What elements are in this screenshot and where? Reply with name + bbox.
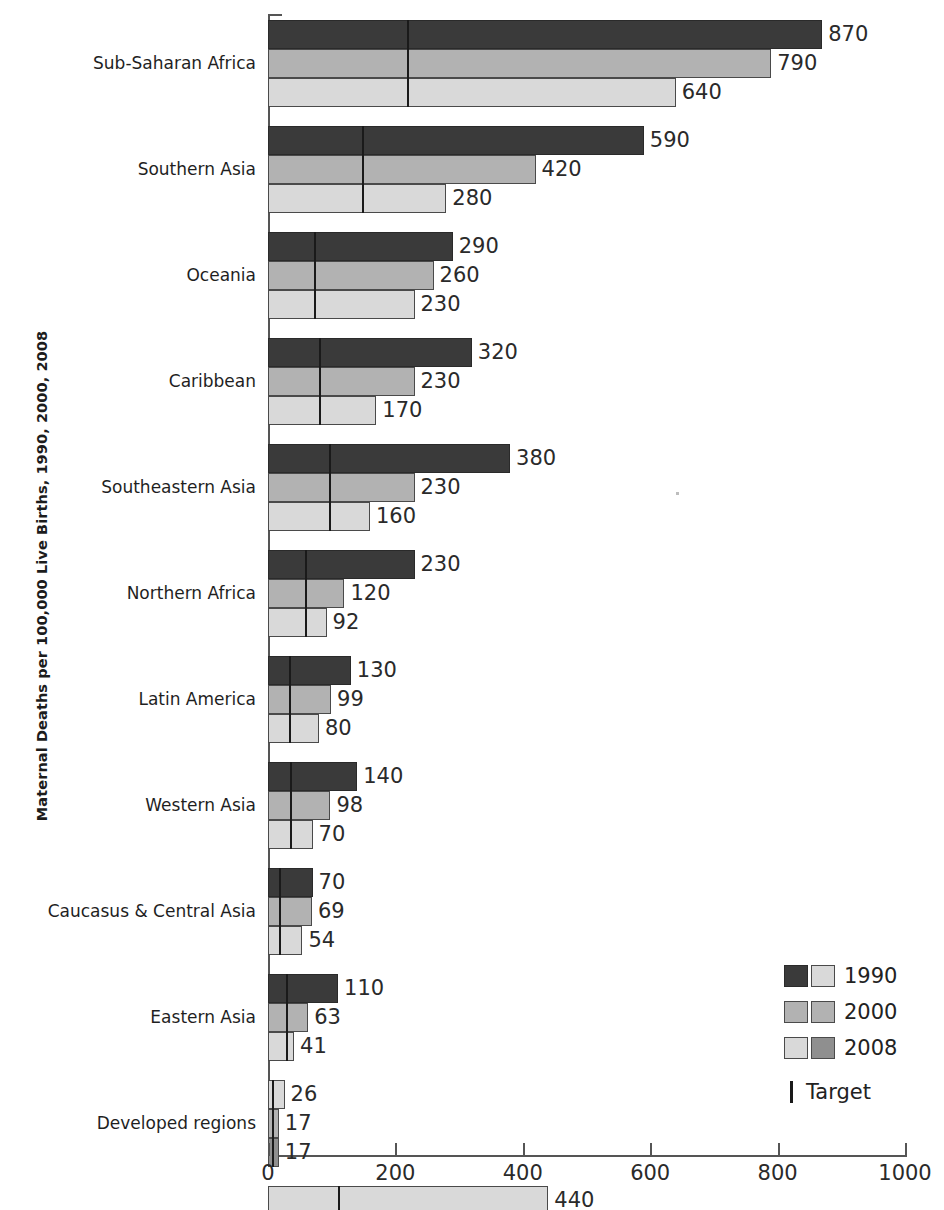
bar-1990 [268, 550, 415, 579]
target-line [319, 338, 321, 425]
category-label: Sub-Saharan Africa [93, 53, 256, 73]
bar-value-label: 230 [421, 290, 461, 319]
category-label: Caribbean [169, 371, 256, 391]
bar-value-label: 280 [452, 184, 492, 213]
target-line [314, 232, 316, 319]
bar-value-label: 69 [318, 897, 345, 926]
bar-value-label: 230 [421, 367, 461, 396]
legend-swatch-dark-icon [784, 965, 808, 987]
bar-value-label: 26 [291, 1080, 318, 1109]
bar-value-label: 320 [478, 338, 518, 367]
target-line [338, 1186, 340, 1210]
bar-value-label: 230 [421, 550, 461, 579]
category-label: Western Asia [145, 795, 256, 815]
target-line [362, 126, 364, 213]
category-label: Northern Africa [127, 583, 256, 603]
legend-swatch-medium-icon [784, 1001, 808, 1023]
bar-2000 [268, 1003, 308, 1032]
target-line [272, 1080, 274, 1167]
bar-value-label: 110 [344, 974, 384, 1003]
legend-item-target[interactable]: Target [784, 1078, 944, 1108]
category-label: Southern Asia [138, 159, 256, 179]
bar-2008 [268, 184, 446, 213]
bar-1990 [268, 20, 822, 49]
target-line [279, 868, 281, 955]
bar-1990 [268, 762, 357, 791]
x-tick [650, 1143, 652, 1156]
category-label: Latin America [138, 689, 256, 709]
bar-1990 [268, 1080, 285, 1109]
legend-swatch-light-alt-icon [784, 1037, 808, 1059]
bar-value-label: 440 [554, 1186, 594, 1210]
bar-value-label: 590 [650, 126, 690, 155]
bar-2008 [268, 290, 415, 319]
bar-group: Developing regions440370290 [0, 1186, 944, 1210]
bar-group: Southern Asia590420280 [0, 126, 944, 213]
bar-group: Western Asia1409870 [0, 762, 944, 849]
bar-value-label: 130 [357, 656, 397, 685]
bar-2000 [268, 791, 330, 820]
x-tick-label: 200 [375, 1161, 415, 1185]
bar-1990 [268, 338, 472, 367]
bar-group: Latin America1309980 [0, 656, 944, 743]
category-label: Southeastern Asia [101, 477, 256, 497]
bar-1990 [268, 1186, 548, 1210]
bar-value-label: 640 [682, 78, 722, 107]
bar-value-label: 380 [516, 444, 556, 473]
bar-value-label: 17 [285, 1109, 312, 1138]
bar-group: Sub-Saharan Africa870790640 [0, 20, 944, 107]
bar-2000 [268, 897, 312, 926]
legend-label-1990: 1990 [844, 962, 897, 990]
bar-2008 [268, 714, 319, 743]
x-tick [523, 1143, 525, 1156]
x-tick [395, 1143, 397, 1156]
bar-2000 [268, 685, 331, 714]
legend-item-2008[interactable]: 2008 [784, 1034, 944, 1064]
bar-2008 [268, 396, 376, 425]
bar-group: Caucasus & Central Asia706954 [0, 868, 944, 955]
bar-value-label: 98 [336, 791, 363, 820]
bar-1990 [268, 232, 453, 261]
bar-2008 [268, 502, 370, 531]
bar-2000 [268, 155, 536, 184]
bar-2000 [268, 261, 434, 290]
target-line [289, 656, 291, 743]
bar-2000 [268, 473, 415, 502]
bar-value-label: 120 [350, 579, 390, 608]
bar-value-label: 63 [314, 1003, 341, 1032]
x-tick-label: 600 [630, 1161, 670, 1185]
legend-swatch-medium-alt-icon [811, 1001, 835, 1023]
target-line [305, 550, 307, 637]
x-tick [778, 1143, 780, 1156]
bar-1990 [268, 868, 313, 897]
legend-label-target: Target [806, 1078, 871, 1106]
bar-2000 [268, 49, 771, 78]
bar-value-label: 160 [376, 502, 416, 531]
legend-swatch-light-icon [811, 965, 835, 987]
bar-value-label: 420 [542, 155, 582, 184]
bar-value-label: 260 [440, 261, 480, 290]
x-tick-label: 400 [503, 1161, 543, 1185]
axis-top-stub [268, 14, 282, 16]
x-tick [905, 1143, 907, 1156]
bar-group: Southeastern Asia380230160 [0, 444, 944, 531]
bar-1990 [268, 656, 351, 685]
legend-swatch-dark-alt-icon [811, 1037, 835, 1059]
category-label: Developed regions [97, 1113, 256, 1133]
bar-2000 [268, 367, 415, 396]
bar-value-label: 70 [319, 868, 346, 897]
target-line [329, 444, 331, 531]
legend-item-1990[interactable]: 1990 [784, 962, 944, 992]
legend-item-2000[interactable]: 2000 [784, 998, 944, 1028]
bar-value-label: 17 [285, 1138, 312, 1167]
bar-group: Oceania290260230 [0, 232, 944, 319]
bar-value-label: 870 [828, 20, 868, 49]
bar-2008 [268, 1032, 294, 1061]
bar-value-label: 80 [325, 714, 352, 743]
bar-group: Caribbean320230170 [0, 338, 944, 425]
bar-value-label: 70 [319, 820, 346, 849]
category-label: Caucasus & Central Asia [48, 901, 256, 921]
bar-2008 [268, 926, 302, 955]
category-label: Eastern Asia [150, 1007, 256, 1027]
target-line [286, 974, 288, 1061]
